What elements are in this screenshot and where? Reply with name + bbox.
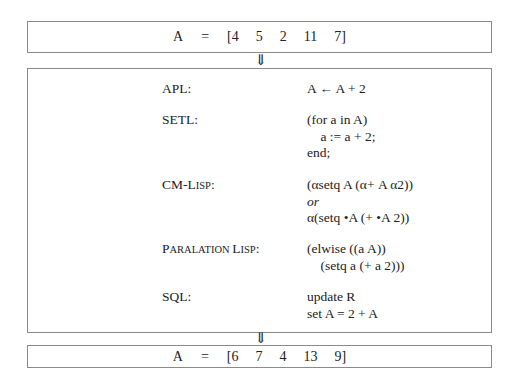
output-value: 13	[304, 349, 318, 365]
input-value: 5	[256, 29, 263, 45]
input-equals: =	[201, 29, 209, 45]
code-line: (αsetq A (α+ A α2))	[307, 177, 413, 194]
output-vector-box: A = [6 7 4 13 9]	[27, 345, 492, 368]
code-line: update R	[307, 289, 378, 306]
output-value: [6	[227, 349, 239, 365]
down-double-arrow-icon: ⇓	[0, 331, 522, 346]
label-sql: SQL:	[162, 289, 191, 305]
input-value: 7]	[334, 29, 346, 45]
code-line: set A = 2 + A	[307, 306, 378, 323]
code-line: (elwise ((a A))	[307, 241, 405, 258]
code-line: (for a in A)	[307, 112, 375, 129]
code-cm-lisp: (αsetq A (α+ A α2)) or α(setq •A (+ •A 2…	[307, 177, 413, 227]
code-setl: (for a in A) a := a + 2; end;	[307, 112, 375, 162]
label-setl: SETL:	[162, 112, 198, 128]
code-line: A ← A + 2	[307, 81, 366, 98]
output-value: 7	[256, 349, 263, 365]
label-paralation-lisp: PARALATION LISP:	[162, 241, 259, 257]
down-double-arrow-icon: ⇓	[0, 53, 522, 68]
code-line-or: or	[307, 194, 413, 211]
code-line: (setq a (+ a 2)))	[307, 258, 405, 275]
input-value: [4	[227, 29, 239, 45]
input-lhs: A	[173, 29, 183, 45]
input-value: 11	[304, 29, 317, 45]
code-sql: update R set A = 2 + A	[307, 289, 378, 322]
label-cm-lisp: CM-LISP:	[162, 177, 215, 193]
code-paralation-lisp: (elwise ((a A)) (setq a (+ a 2)))	[307, 241, 405, 274]
input-vector: A = [4 5 2 11 7]	[28, 22, 491, 52]
input-value: 2	[280, 29, 287, 45]
code-line: α(setq •A (+ •A 2))	[307, 210, 413, 227]
code-line: a := a + 2;	[307, 129, 375, 146]
output-value: 9]	[335, 349, 347, 365]
code-apl: A ← A + 2	[307, 81, 366, 98]
input-vector-box: A = [4 5 2 11 7]	[27, 21, 492, 53]
code-line: end;	[307, 145, 375, 162]
output-vector: A = [6 7 4 13 9]	[28, 346, 491, 367]
output-equals: =	[201, 349, 209, 365]
output-value: 4	[280, 349, 287, 365]
output-lhs: A	[173, 349, 183, 365]
languages-box	[27, 68, 492, 333]
label-apl: APL:	[162, 81, 191, 97]
